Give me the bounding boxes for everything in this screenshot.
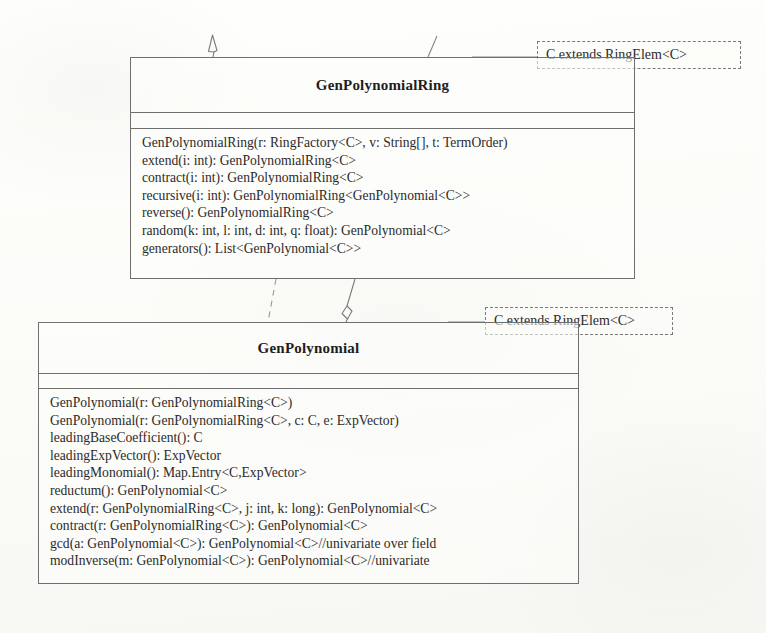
generalization-up-left-connector	[209, 35, 218, 57]
operation-line: leadingBaseCoefficient(): C	[50, 429, 578, 447]
operation-line: extend(r: GenPolynomialRing<C>, j: int, …	[50, 500, 578, 518]
class-box-genpolynomialring[interactable]: GenPolynomialRing GenPolynomialRing(r: R…	[130, 57, 635, 279]
operation-line: gcd(a: GenPolynomial<C>): GenPolynomial<…	[50, 535, 578, 553]
diagram-canvas: C extends RingElem<C> GenPolynomialRing …	[0, 0, 766, 633]
class-name-genpolynomialring: GenPolynomialRing	[316, 77, 449, 94]
operation-line: GenPolynomialRing(r: RingFactory<C>, v: …	[142, 134, 634, 152]
aggregation-poly-to-ring-connector	[342, 279, 355, 322]
operation-line: reverse(): GenPolynomialRing<C>	[142, 204, 634, 222]
operation-line: extend(i: int): GenPolynomialRing<C>	[142, 152, 634, 170]
operation-line: GenPolynomial(r: GenPolynomialRing<C>, c…	[50, 412, 578, 430]
operation-line: contract(i: int): GenPolynomialRing<C>	[142, 169, 634, 187]
class-title-compartment: GenPolynomialRing	[131, 58, 634, 112]
association-up-right-connector	[428, 36, 437, 57]
operation-line: leadingMonomial(): Map.Entry<C,ExpVector…	[50, 464, 578, 482]
class-box-genpolynomial[interactable]: GenPolynomial GenPolynomial(r: GenPolyno…	[38, 322, 579, 584]
class-name-genpolynomial: GenPolynomial	[258, 340, 360, 357]
operation-line: leadingExpVector(): ExpVector	[50, 447, 578, 465]
operation-line: modInverse(m: GenPolynomial<C>): GenPoly…	[50, 552, 578, 570]
class-title-compartment: GenPolynomial	[39, 323, 578, 373]
operation-line: generators(): List<GenPolynomial<C>>	[142, 240, 634, 258]
class-attribute-compartment	[39, 374, 578, 388]
dependency-ring-to-poly-connector	[268, 279, 276, 322]
class-attribute-compartment	[131, 113, 634, 128]
class-operation-compartment: GenPolynomialRing(r: RingFactory<C>, v: …	[131, 129, 634, 260]
class-operation-compartment: GenPolynomial(r: GenPolynomialRing<C>) G…	[39, 389, 578, 573]
operation-line: reductum(): GenPolynomial<C>	[50, 482, 578, 500]
operation-line: random(k: int, l: int, d: int, q: float)…	[142, 222, 634, 240]
operation-line: contract(r: GenPolynomialRing<C>): GenPo…	[50, 517, 578, 535]
operation-line: recursive(i: int): GenPolynomialRing<Gen…	[142, 187, 634, 205]
operation-line: GenPolynomial(r: GenPolynomialRing<C>)	[50, 394, 578, 412]
